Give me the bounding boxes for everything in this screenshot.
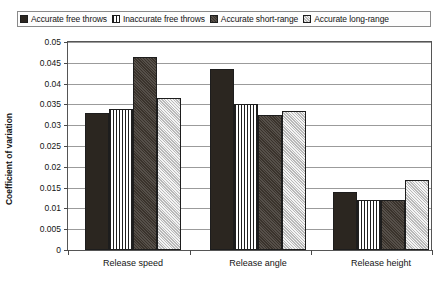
bar-group — [333, 42, 429, 250]
legend-entry: Accurate long-range — [303, 15, 389, 24]
x-axis-category-label: Release speed — [103, 258, 163, 268]
bar — [405, 180, 429, 250]
y-tick-label: 0.005 — [40, 225, 61, 234]
bar — [157, 98, 181, 250]
y-tick-label: 0 — [56, 246, 61, 255]
legend-label: Accurate free throws — [31, 15, 107, 24]
x-tick-mark — [190, 250, 191, 255]
legend-swatch-icon — [210, 15, 218, 23]
legend-entry: Accurate short-range — [210, 15, 298, 24]
bar — [210, 69, 234, 250]
y-axis-title-text: Coefficient of variation — [4, 113, 14, 205]
x-tick-mark — [432, 250, 433, 255]
x-tick-mark — [68, 250, 69, 255]
y-tick-label: 0.035 — [40, 100, 61, 109]
y-tick-label: 0.02 — [44, 162, 61, 171]
legend-label: Accurate short-range — [221, 15, 298, 24]
x-tick-mark — [311, 250, 312, 255]
bar — [333, 192, 357, 250]
legend-label: Inaccurate free throws — [123, 15, 205, 24]
x-axis-category-label: Release angle — [229, 258, 287, 268]
y-tick-label: 0.05 — [44, 38, 61, 47]
y-tick-label: 0.04 — [44, 79, 61, 88]
legend-swatch-icon — [20, 15, 28, 23]
y-tick-label: 0.045 — [40, 58, 61, 67]
bar-group — [210, 42, 306, 250]
legend-label: Accurate long-range — [314, 15, 389, 24]
bar — [357, 200, 381, 250]
legend-entry: Accurate free throws — [20, 15, 107, 24]
bar — [85, 113, 109, 250]
legend-swatch-icon — [112, 15, 120, 23]
legend-entry: Inaccurate free throws — [112, 15, 205, 24]
y-axis-title: Coefficient of variation — [2, 84, 16, 234]
bar — [234, 104, 258, 250]
y-tick-label: 0.03 — [44, 121, 61, 130]
bar — [109, 109, 133, 250]
bars-layer — [68, 42, 431, 250]
x-axis-category-label: Release height — [351, 258, 411, 268]
y-tick-label: 0.015 — [40, 183, 61, 192]
bar — [282, 111, 306, 250]
bar-group — [85, 42, 181, 250]
bar — [381, 200, 405, 250]
plot-area: 0.050.0450.040.0350.030.0250.020.0150.01… — [67, 41, 432, 251]
bar — [133, 57, 157, 250]
y-tick-label: 0.025 — [40, 142, 61, 151]
legend-swatch-icon — [303, 15, 311, 23]
bar — [258, 115, 282, 250]
y-tick-label: 0.01 — [44, 204, 61, 213]
chart-legend: Accurate free throwsInaccurate free thro… — [17, 11, 431, 27]
